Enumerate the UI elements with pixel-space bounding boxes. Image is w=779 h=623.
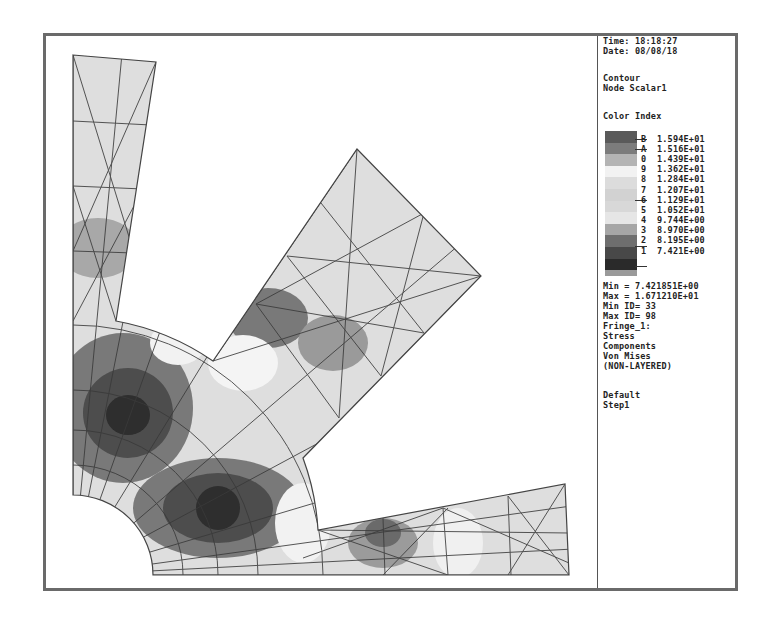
legend-swatch: [605, 201, 637, 213]
legend-swatch: [605, 224, 637, 236]
legend-entry: 1 7.421E+00: [641, 247, 705, 257]
timestamp-date: Date: 08/08/18: [603, 47, 677, 57]
legend-tick: [635, 266, 647, 267]
legend-swatch-bottom: [605, 270, 637, 276]
legend-swatch: [605, 143, 637, 155]
legend-swatch-column: [605, 131, 637, 276]
legend-entry: 2 8.195E+00: [641, 236, 705, 246]
plot-scalar: Node Scalar1: [603, 84, 667, 94]
legend-swatch: [605, 154, 637, 166]
legend-swatch: [605, 212, 637, 224]
legend-swatch: [605, 166, 637, 178]
legend-entry: 8 1.284E+01: [641, 175, 705, 185]
legend-swatch: [605, 259, 637, 271]
fem-mesh-contour: [46, 36, 597, 588]
result-layer: (NON-LAYERED): [603, 362, 672, 372]
subcase-step: Step1: [603, 401, 630, 411]
legend-swatch: [605, 131, 637, 143]
legend-swatch: [605, 235, 637, 247]
stress-fringe: [46, 36, 597, 588]
plot-window-frame: Time: 18:18:27 Date: 08/08/18 Contour No…: [43, 33, 738, 591]
legend-swatch: [605, 177, 637, 189]
legend-title: Color Index: [603, 112, 662, 122]
legend-swatch: [605, 247, 637, 259]
legend-swatch: [605, 189, 637, 201]
info-panel: Time: 18:18:27 Date: 08/08/18 Contour No…: [601, 36, 735, 588]
fem-viewport[interactable]: [46, 36, 598, 588]
